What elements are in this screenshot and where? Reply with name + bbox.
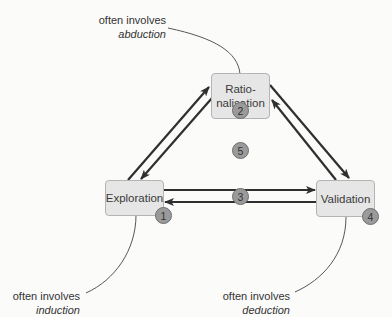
- deduction-connector: [295, 217, 346, 292]
- arrow-rationalisation-to-validation: [270, 85, 349, 178]
- arrow-exploration-to-rationalisation: [128, 87, 209, 180]
- arrow-validation-to-rationalisation: [272, 100, 336, 180]
- annotation-deduction: often involves deduction: [200, 289, 290, 317]
- annotation-abduction: often involves abduction: [60, 13, 166, 41]
- arrow-rationalisation-to-exploration: [141, 98, 212, 179]
- badge-4: 4: [362, 208, 379, 225]
- annotation-induction: often involves induction: [0, 289, 80, 317]
- badge-3: 3: [232, 188, 249, 205]
- badge-2: 2: [232, 102, 249, 119]
- badge-1: 1: [155, 207, 172, 224]
- badge-5: 5: [232, 142, 249, 159]
- abduction-connector: [168, 28, 240, 74]
- induction-connector: [86, 215, 136, 293]
